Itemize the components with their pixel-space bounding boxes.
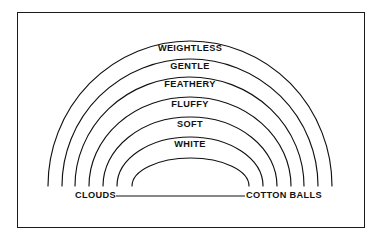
band-label-soft: SOFT <box>177 120 203 129</box>
diagram-canvas: WEIGHTLESS GENTLE FEATHERY FLUFFY SOFT W… <box>0 0 382 243</box>
band-label-gentle: GENTLE <box>170 62 209 71</box>
band-label-white: WHITE <box>174 140 205 149</box>
arc-band-6 <box>132 158 249 186</box>
band-label-fluffy: FLUFFY <box>171 100 208 109</box>
band-label-feathery: FEATHERY <box>164 80 215 89</box>
band-label-weightless: WEIGHTLESS <box>158 44 222 53</box>
endpoint-label-cotton-balls: COTTON BALLS <box>246 191 322 200</box>
endpoint-label-clouds: CLOUDS <box>75 191 116 200</box>
